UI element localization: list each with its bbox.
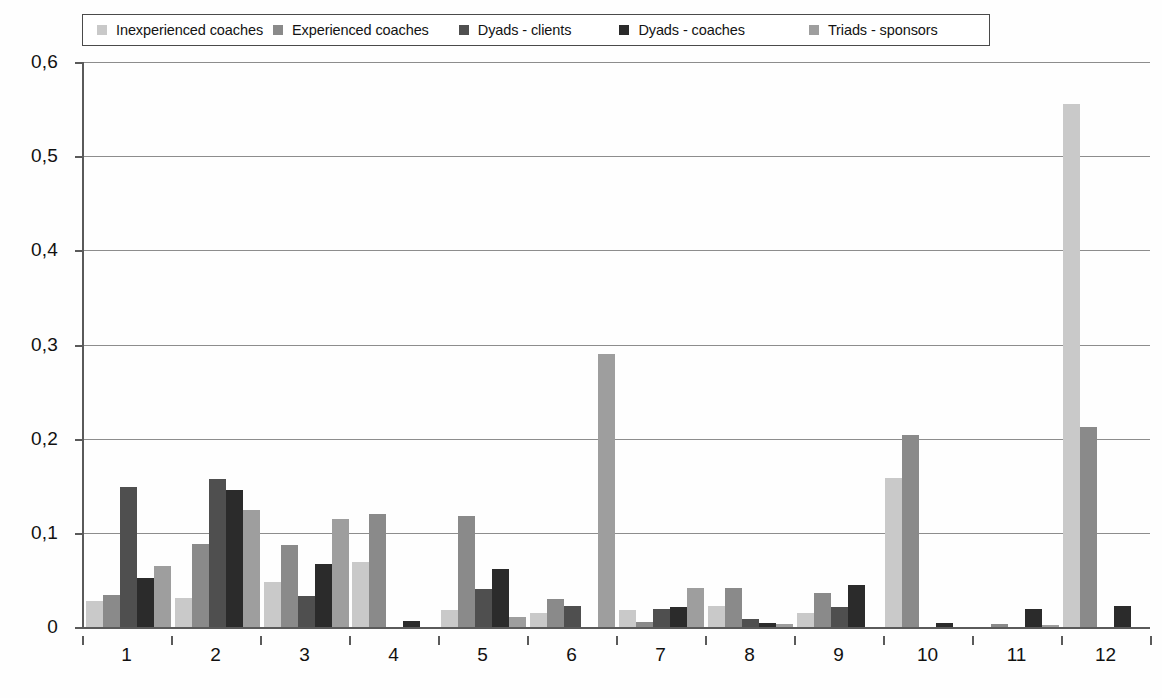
bar[interactable] bbox=[725, 588, 742, 627]
y-axis-tick-label: 0,3 bbox=[0, 334, 58, 356]
bar[interactable] bbox=[670, 607, 687, 627]
legend-item-label: Dyads - coaches bbox=[638, 22, 745, 38]
bar-slot bbox=[226, 62, 243, 627]
bar-group bbox=[795, 62, 884, 627]
bar[interactable] bbox=[226, 490, 243, 627]
x-axis-tick bbox=[705, 636, 707, 645]
y-axis-tick bbox=[75, 156, 84, 158]
plot-area: 0,60,50,40,30,20,10 bbox=[82, 62, 1150, 627]
bar-slot bbox=[103, 62, 120, 627]
bar[interactable] bbox=[530, 613, 547, 627]
bar[interactable] bbox=[848, 585, 865, 627]
y-axis-tick-label: 0,6 bbox=[0, 51, 58, 73]
bar-slot bbox=[653, 62, 670, 627]
bar-slot bbox=[369, 62, 386, 627]
bar[interactable] bbox=[209, 479, 226, 627]
x-axis-tick-label: 4 bbox=[349, 636, 438, 676]
x-axis-tick-label: 6 bbox=[527, 636, 616, 676]
bar-slot bbox=[332, 62, 349, 627]
bar[interactable] bbox=[332, 519, 349, 627]
bar-slot bbox=[708, 62, 725, 627]
bar[interactable] bbox=[352, 562, 369, 627]
bar[interactable] bbox=[1080, 427, 1097, 627]
bar[interactable] bbox=[687, 588, 704, 627]
bar[interactable] bbox=[708, 606, 725, 627]
x-axis-tick-label: 12 bbox=[1061, 636, 1150, 676]
bar-slot bbox=[725, 62, 742, 627]
bar-group bbox=[262, 62, 351, 627]
y-axis-tick-label: 0,4 bbox=[0, 239, 58, 261]
y-axis-tick bbox=[75, 62, 84, 64]
bar-slot bbox=[154, 62, 171, 627]
bar[interactable] bbox=[154, 566, 171, 627]
bar-slot bbox=[547, 62, 564, 627]
bar-group bbox=[350, 62, 439, 627]
bar[interactable] bbox=[492, 569, 509, 627]
bar-group bbox=[84, 62, 173, 627]
bar[interactable] bbox=[1063, 104, 1080, 627]
bar-slot bbox=[264, 62, 281, 627]
x-axis-tick bbox=[527, 636, 529, 645]
legend-swatch-icon bbox=[273, 25, 283, 35]
x-axis-tick bbox=[794, 636, 796, 645]
legend-item: Experienced coaches bbox=[273, 22, 429, 38]
bar[interactable] bbox=[564, 606, 581, 627]
bar[interactable] bbox=[742, 619, 759, 627]
bar-slot bbox=[86, 62, 103, 627]
y-axis-tick bbox=[75, 439, 84, 441]
bar-slot bbox=[120, 62, 137, 627]
bar[interactable] bbox=[369, 514, 386, 627]
x-axis-tick bbox=[616, 636, 618, 645]
bar[interactable] bbox=[547, 599, 564, 627]
bar-slot bbox=[953, 62, 970, 627]
bar[interactable] bbox=[281, 545, 298, 627]
bar[interactable] bbox=[298, 596, 315, 627]
legend-item: Dyads - coaches bbox=[619, 22, 745, 38]
bar[interactable] bbox=[902, 435, 919, 627]
bar-slot bbox=[1131, 62, 1148, 627]
bar-group bbox=[706, 62, 795, 627]
bar[interactable] bbox=[103, 595, 120, 627]
bar[interactable] bbox=[458, 516, 475, 627]
bar-slot bbox=[209, 62, 226, 627]
x-axis-tick bbox=[171, 636, 173, 645]
bar[interactable] bbox=[120, 487, 137, 627]
bar[interactable] bbox=[243, 510, 260, 627]
bar-slot bbox=[441, 62, 458, 627]
bar[interactable] bbox=[264, 582, 281, 627]
bar[interactable] bbox=[619, 610, 636, 627]
bar-group bbox=[972, 62, 1061, 627]
bar[interactable] bbox=[315, 564, 332, 627]
bar[interactable] bbox=[598, 354, 615, 627]
legend-item: Inexperienced coaches bbox=[97, 22, 263, 38]
bar[interactable] bbox=[441, 610, 458, 627]
bar-slot bbox=[352, 62, 369, 627]
bar-slot bbox=[831, 62, 848, 627]
bar-slot bbox=[759, 62, 776, 627]
x-axis-tick-label: 2 bbox=[171, 636, 260, 676]
bar-slot bbox=[581, 62, 598, 627]
bar[interactable] bbox=[137, 578, 154, 627]
bar-slot bbox=[902, 62, 919, 627]
bar[interactable] bbox=[175, 598, 192, 627]
bar[interactable] bbox=[1025, 609, 1042, 627]
bar[interactable] bbox=[797, 613, 814, 627]
bar[interactable] bbox=[814, 593, 831, 627]
bar[interactable] bbox=[1114, 606, 1131, 627]
x-axis-line bbox=[82, 627, 1150, 629]
bar[interactable] bbox=[192, 544, 209, 627]
bar[interactable] bbox=[831, 607, 848, 627]
legend-item-label: Dyads - clients bbox=[478, 22, 572, 38]
bar-slot bbox=[797, 62, 814, 627]
x-axis-tick-label: 9 bbox=[794, 636, 883, 676]
bar[interactable] bbox=[475, 589, 492, 627]
bar[interactable] bbox=[653, 609, 670, 627]
bar[interactable] bbox=[509, 617, 526, 627]
bar-slot bbox=[1080, 62, 1097, 627]
bar-group bbox=[173, 62, 262, 627]
bar-slot bbox=[137, 62, 154, 627]
bar[interactable] bbox=[885, 478, 902, 627]
x-axis-tick-label: 8 bbox=[705, 636, 794, 676]
bar[interactable] bbox=[86, 601, 103, 627]
bar-slot bbox=[386, 62, 403, 627]
